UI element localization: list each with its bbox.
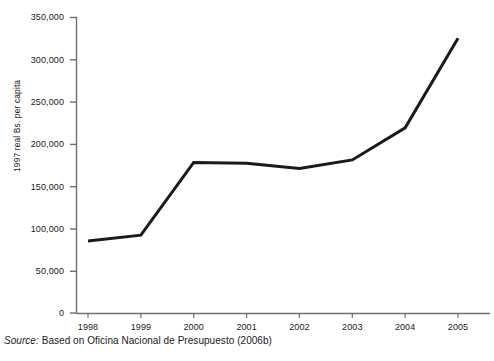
- x-tick-label-2003: 2003: [342, 322, 362, 332]
- y-tick-label-0: 0: [6, 308, 64, 318]
- source-text: Based on Oficina Nacional de Presupuesto…: [39, 335, 272, 346]
- x-tick-label-2004: 2004: [395, 322, 415, 332]
- x-tick-label-2005: 2005: [448, 322, 468, 332]
- y-tick-label-350000: 350,000: [6, 12, 64, 22]
- data-series-line: [88, 38, 458, 241]
- line-chart-plot: [0, 0, 494, 361]
- x-tick-label-2000: 2000: [183, 322, 203, 332]
- x-tick-label-1999: 1999: [131, 322, 151, 332]
- x-tick-label-2001: 2001: [236, 322, 256, 332]
- y-tick-label-150000: 150,000: [6, 182, 64, 192]
- x-tick-label-1998: 1998: [78, 322, 98, 332]
- y-axis-title: 1997 real Bs. per capita: [12, 80, 22, 172]
- source-note: Source: Based on Oficina Nacional de Pre…: [4, 335, 272, 346]
- y-tick-label-50000: 50,000: [6, 266, 64, 276]
- y-tick-label-100000: 100,000: [6, 224, 64, 234]
- chart-figure: 350,000 300,000 250,000 200,000 150,000 …: [0, 0, 494, 361]
- source-label: Source:: [4, 335, 39, 346]
- x-tick-label-2002: 2002: [289, 322, 309, 332]
- y-tick-label-300000: 300,000: [6, 55, 64, 65]
